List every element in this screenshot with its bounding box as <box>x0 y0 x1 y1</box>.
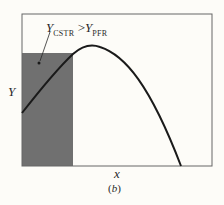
caption-paren-close: ) <box>117 182 121 194</box>
diagram-canvas <box>0 0 224 205</box>
y-axis-label: Y <box>8 84 15 100</box>
figure-caption: (b) <box>108 182 121 194</box>
shaded-cstr-area <box>22 53 73 166</box>
x-axis-label: x <box>114 166 120 182</box>
greater-than-operator: > <box>78 20 85 35</box>
pfr-subscript: PFR <box>92 29 107 38</box>
yield-comparison-annotation: YCSTR >YPFR <box>46 20 107 38</box>
annotation-dot <box>38 62 41 65</box>
cstr-subscript: CSTR <box>53 29 74 38</box>
